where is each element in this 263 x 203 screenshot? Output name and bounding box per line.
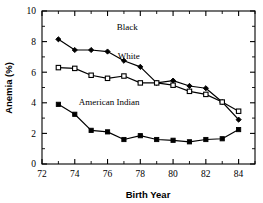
data-point-marker: [187, 83, 192, 88]
data-point-marker: [220, 137, 224, 141]
x-axis-title: Birth Year: [126, 189, 171, 200]
data-point-marker: [171, 83, 175, 87]
data-point-marker: [105, 49, 110, 54]
x-tick-label: 74: [70, 169, 80, 179]
series-label-white: White: [118, 51, 140, 61]
x-tick-label: 82: [201, 169, 211, 179]
y-tick-label: 10: [27, 6, 37, 16]
data-point-marker: [105, 76, 109, 80]
x-tick-label: 76: [103, 169, 113, 179]
data-point-marker: [89, 73, 93, 77]
x-tick-label: 78: [136, 169, 146, 179]
data-point-marker: [73, 112, 77, 116]
series-label-american-indian: American Indian: [79, 97, 140, 107]
data-point-marker: [122, 137, 126, 141]
data-series-group: [56, 37, 241, 144]
series-annotation-labels: BlackWhiteAmerican Indian: [79, 22, 140, 107]
x-tick-label: 80: [168, 169, 178, 179]
data-point-marker: [89, 128, 93, 132]
y-tick-label: 0: [31, 159, 36, 169]
series-american-indian: [56, 102, 240, 144]
x-tick-label: 72: [37, 169, 47, 179]
chart-canvas: 72747678808284 0246810 BlackWhiteAmerica…: [0, 0, 263, 203]
data-point-marker: [237, 127, 241, 131]
y-tick-labels: 0246810: [27, 6, 37, 169]
series-line: [58, 39, 238, 119]
data-point-marker: [204, 92, 208, 96]
data-point-marker: [122, 74, 126, 78]
data-point-marker: [187, 140, 191, 144]
series-line: [58, 104, 238, 141]
data-point-marker: [154, 81, 158, 85]
data-point-marker: [73, 66, 77, 70]
data-point-marker: [89, 47, 94, 52]
series-black: [56, 37, 241, 123]
data-point-marker: [236, 109, 240, 113]
data-point-marker: [204, 137, 208, 141]
data-point-marker: [138, 134, 142, 138]
y-axis-title: Anemia (%): [3, 62, 14, 114]
y-tick-label: 4: [31, 98, 36, 108]
x-tick-labels: 72747678808284: [37, 169, 243, 179]
data-point-marker: [105, 130, 109, 134]
y-tick-label: 6: [31, 68, 36, 78]
data-point-marker: [138, 81, 142, 85]
data-point-marker: [170, 78, 175, 83]
data-point-marker: [187, 89, 191, 93]
anemia-birth-year-chart: 72747678808284 0246810 BlackWhiteAmerica…: [0, 0, 263, 203]
data-point-marker: [220, 100, 224, 104]
series-label-black: Black: [117, 22, 138, 32]
y-tick-label: 8: [31, 37, 36, 47]
x-tick-label: 84: [234, 169, 244, 179]
data-point-marker: [155, 137, 159, 141]
data-point-marker: [56, 65, 60, 69]
data-point-marker: [171, 138, 175, 142]
data-point-marker: [56, 102, 60, 106]
y-tick-label: 2: [31, 129, 36, 139]
